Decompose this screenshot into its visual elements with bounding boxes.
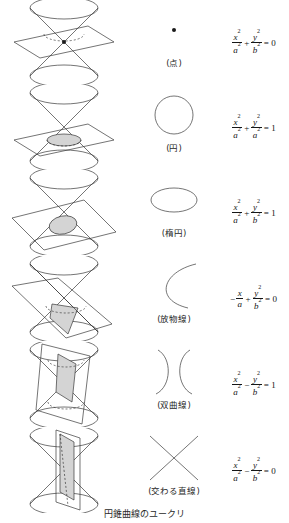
fraction: x2a2 — [232, 116, 243, 140]
cone-diagram-intersecting-lines — [0, 428, 130, 513]
constant: 0 — [271, 466, 276, 476]
conic-row-hyperbola: (双曲線)x2a2−y2b2=1 — [0, 342, 289, 427]
equation-hyperbola: x2a2−y2b2=1 — [218, 342, 289, 427]
operator: − — [244, 380, 249, 390]
curve-cell-ellipse: (楕円) — [130, 170, 218, 255]
equation-circle: x2a2+y2a2=1 — [218, 85, 289, 170]
constant: 1 — [271, 123, 276, 133]
curve-cell-intersecting-lines: (交わる直線) — [130, 428, 218, 513]
equation-point: x2a2+y2b2=0 — [218, 0, 289, 85]
constant: 1 — [271, 208, 276, 218]
operator: + — [244, 208, 249, 218]
equation-cell-parabola: −xa+y2b2=0 — [218, 256, 289, 341]
operator: = — [264, 38, 269, 48]
operator: + — [244, 38, 249, 48]
curve-cell-point: (点) — [130, 0, 218, 85]
curve-shape-hyperbola — [138, 346, 210, 398]
fraction: x2a2 — [232, 373, 243, 397]
operator: + — [245, 294, 250, 304]
negative-sign: − — [230, 294, 235, 304]
operator: = — [265, 294, 270, 304]
curve-cell-circle: (円) — [130, 85, 218, 170]
operator: = — [264, 123, 269, 133]
conic-row-point: (点)x2a2+y2b2=0 — [0, 0, 289, 85]
curve-shape-ellipse — [138, 174, 210, 226]
equation-cell-point: x2a2+y2b2=0 — [218, 0, 289, 85]
conic-row-parabola: (放物線)−xa+y2b2=0 — [0, 256, 289, 341]
curve-label-circle: (円) — [130, 143, 218, 153]
conic-row-intersecting-lines: (交わる直線)x2a2−y2b2=0 — [0, 428, 289, 513]
operator: + — [244, 123, 249, 133]
conic-sections-figure: (点)x2a2+y2b2=0(円)x2a2+y2a2=1(楕円)x2a2+y2b… — [0, 0, 289, 523]
fraction: y2b2 — [251, 201, 262, 225]
fraction: y2b2 — [251, 31, 262, 55]
curve-label-hyperbola: (双曲線) — [130, 400, 218, 410]
cone-diagram-circle — [0, 85, 130, 170]
cone-diagram-parabola — [0, 256, 130, 341]
equation-cell-ellipse: x2a2+y2b2=1 — [218, 170, 289, 255]
conic-row-circle: (円)x2a2+y2a2=1 — [0, 85, 289, 170]
operator: − — [244, 466, 249, 476]
constant: 0 — [271, 38, 276, 48]
operator: = — [264, 208, 269, 218]
curve-shape-point — [138, 4, 210, 56]
fraction: y2b2 — [251, 459, 262, 483]
fraction: x2a2 — [232, 31, 243, 55]
cone-diagram-ellipse — [0, 170, 130, 255]
curve-cell-hyperbola: (双曲線) — [130, 342, 218, 427]
fraction: y2b2 — [251, 373, 262, 397]
cone-diagram-point — [0, 0, 130, 85]
operator: = — [264, 380, 269, 390]
conic-row-ellipse: (楕円)x2a2+y2b2=1 — [0, 170, 289, 255]
curve-shape-intersecting-lines — [138, 432, 210, 484]
fraction: xa — [236, 289, 244, 309]
curve-cell-parabola: (放物線) — [130, 256, 218, 341]
curve-shape-circle — [138, 89, 210, 141]
curve-label-intersecting-lines: (交わる直線) — [130, 486, 218, 496]
equation-cell-circle: x2a2+y2a2=1 — [218, 85, 289, 170]
equation-ellipse: x2a2+y2b2=1 — [218, 170, 289, 255]
figure-caption: 円錐曲線のユークリ — [0, 508, 289, 520]
fraction: y2a2 — [251, 116, 262, 140]
equation-cell-intersecting-lines: x2a2−y2b2=0 — [218, 428, 289, 513]
curve-label-point: (点) — [130, 58, 218, 68]
fraction: x2a2 — [232, 201, 243, 225]
constant: 1 — [271, 380, 276, 390]
curve-shape-parabola — [138, 260, 210, 312]
fraction: x2a2 — [232, 459, 243, 483]
equation-cell-hyperbola: x2a2−y2b2=1 — [218, 342, 289, 427]
fraction: y2b2 — [253, 287, 264, 311]
cone-diagram-hyperbola — [0, 342, 130, 427]
operator: = — [264, 466, 269, 476]
equation-intersecting-lines: x2a2−y2b2=0 — [218, 428, 289, 513]
curve-label-parabola: (放物線) — [130, 314, 218, 324]
curve-label-ellipse: (楕円) — [130, 228, 218, 238]
constant: 0 — [273, 294, 278, 304]
equation-parabola: −xa+y2b2=0 — [218, 256, 289, 341]
